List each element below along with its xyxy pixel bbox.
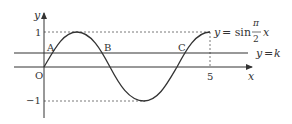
origin-label: O xyxy=(35,70,43,81)
curve-eq-y: y xyxy=(213,26,221,39)
line-eq-eq: = xyxy=(264,47,273,60)
point-a-label: A xyxy=(46,42,55,53)
y-axis-label: y xyxy=(33,9,41,22)
y-tick-neg1: −1 xyxy=(26,95,41,106)
curve-eq-sin: = sin xyxy=(222,26,251,39)
graph-canvas: y x O 1 −1 5 A B C y = sin π 2 x y = k xyxy=(0,0,292,124)
curve-eq-x: x xyxy=(263,26,270,39)
x-axis-label: x xyxy=(248,70,255,83)
curve-eq-num: π xyxy=(252,18,260,28)
line-eq-k: k xyxy=(274,47,281,60)
curve-eq-den: 2 xyxy=(253,34,259,44)
line-eq-y: y xyxy=(255,47,263,60)
point-c-label: C xyxy=(178,42,186,53)
y-tick-1: 1 xyxy=(35,27,41,38)
x-tick-5: 5 xyxy=(207,71,213,82)
point-b-label: B xyxy=(104,42,111,53)
